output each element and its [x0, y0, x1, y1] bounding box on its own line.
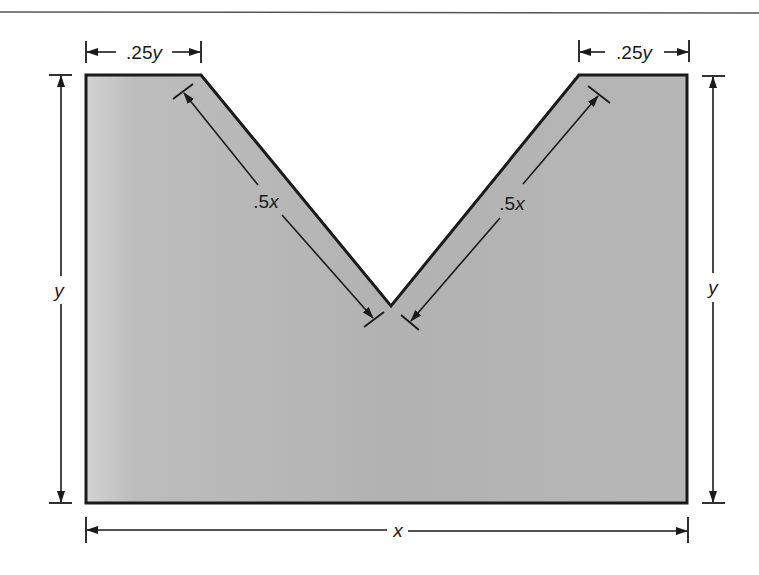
- v-notch-diagram: .25y .25y .5x .5x y y: [0, 0, 759, 575]
- label-right-height: y: [706, 277, 719, 298]
- label-left-height: y: [52, 280, 65, 301]
- label-left-slant: .5x: [253, 191, 280, 212]
- top-rule: [0, 12, 759, 13]
- dimension-right-height: y: [702, 76, 725, 503]
- notched-plate: [86, 75, 687, 503]
- dimension-left-height: y: [49, 75, 72, 503]
- dimension-top-left: .25y: [86, 41, 201, 63]
- dimension-top-right: .25y: [579, 40, 689, 63]
- label-top-right: .25y: [616, 42, 653, 63]
- label-top-left: .25y: [126, 42, 163, 63]
- label-bottom-width: x: [392, 520, 404, 541]
- label-right-slant: .5x: [499, 193, 526, 214]
- dimension-bottom-width: x: [86, 517, 688, 543]
